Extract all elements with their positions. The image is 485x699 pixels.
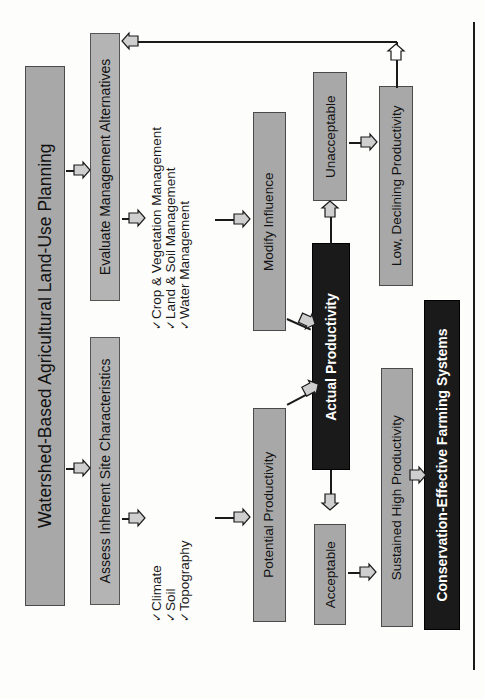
node-sustained-high-productivity: Sustained High Productivity — [381, 368, 413, 627]
bullet-label: Crop & Vegetation Management — [149, 127, 164, 319]
bullet-item: ✓Topography — [178, 540, 192, 622]
arrow-head-unacceptable-to-low — [361, 134, 377, 149]
arrow-head-feedback-to-evaluate — [122, 33, 138, 48]
node-label: Modify Influence — [263, 172, 277, 270]
node-label: Actual Productivity — [324, 293, 338, 421]
node-acceptable: Acceptable — [314, 524, 346, 625]
bullet-list-management: ✓Crop & Vegetation Management ✓Land & So… — [150, 127, 191, 330]
check-icon: ✓ — [179, 611, 191, 622]
arrow-head-feedback-up — [388, 44, 404, 59]
node-label: Assess Inherent Site Characteristics — [98, 359, 112, 584]
connector-actual-to-unacceptable — [330, 213, 332, 245]
arrow-head-evaluate-to-management-bullets — [129, 210, 145, 225]
node-conservation-effective-farming-systems: Conservation-Effective Farming Systems — [424, 300, 460, 630]
node-label: Watershed-Based Agricultural Land-Use Pl… — [36, 144, 54, 529]
bullet-item: ✓Water Management — [178, 127, 192, 330]
bullet-item: ✓Climate — [150, 540, 164, 622]
node-modify-influence: Modify Influence — [253, 112, 286, 331]
node-label: Conservation-Effective Farming Systems — [435, 328, 449, 601]
node-label: Unacceptable — [323, 95, 337, 178]
bullet-item: ✓Land & Soil Management — [164, 127, 178, 330]
bullet-item: ✓Crop & Vegetation Management — [150, 127, 164, 330]
node-label: Sustained High Productivity — [390, 415, 404, 580]
check-icon: ✓ — [179, 319, 191, 330]
node-watershed-based-planning: Watershed-Based Agricultural Land-Use Pl… — [25, 66, 65, 606]
arrow-head-management-to-modify — [234, 211, 250, 226]
node-unacceptable: Unacceptable — [313, 72, 347, 201]
check-icon: ✓ — [165, 319, 177, 330]
arrow-head-assess-to-site-bullets — [129, 510, 145, 525]
arrow-head-title-to-evaluate — [74, 162, 90, 177]
check-icon: ✓ — [151, 611, 163, 622]
arrow-head-actual-to-acceptable — [322, 494, 338, 509]
node-evaluate-management-alternatives: Evaluate Management Alternatives — [90, 33, 120, 301]
node-potential-productivity: Potential Productivity — [253, 408, 286, 622]
diagram-canvas: Watershed-Based Agricultural Land-Use Pl… — [0, 0, 485, 699]
node-label: Potential Productivity — [263, 452, 277, 578]
node-label: Low, Declining Productivity — [389, 106, 403, 267]
arrow-head-acceptable-to-sustained — [360, 564, 376, 579]
check-icon: ✓ — [165, 611, 177, 622]
bullet-label: Land & Soil Management — [163, 167, 178, 319]
arrow-head-actual-to-unacceptable — [322, 201, 338, 216]
arrow-head-title-to-assess — [74, 460, 90, 475]
arrow-head-site-to-potential — [234, 509, 250, 524]
bullet-list-site: ✓Climate ✓Soil ✓Topography — [150, 540, 191, 622]
connector-feedback-horizontal — [128, 41, 397, 43]
bullet-label: Climate — [149, 565, 164, 611]
arrow-head-sustained-to-conservation — [410, 467, 426, 482]
node-label: Evaluate Management Alternatives — [98, 59, 112, 275]
node-low-declining-productivity: Low, Declining Productivity — [379, 86, 413, 286]
page-margin-rule — [473, 22, 475, 670]
check-icon: ✓ — [151, 319, 163, 330]
bullet-item: ✓Soil — [164, 540, 178, 622]
bullet-label: Topography — [177, 540, 192, 611]
node-assess-inherent-site-characteristics: Assess Inherent Site Characteristics — [90, 337, 120, 605]
node-actual-productivity: Actual Productivity — [312, 243, 350, 470]
bullet-label: Water Management — [177, 201, 192, 319]
bullet-label: Soil — [163, 588, 178, 611]
node-label: Acceptable — [323, 541, 337, 608]
